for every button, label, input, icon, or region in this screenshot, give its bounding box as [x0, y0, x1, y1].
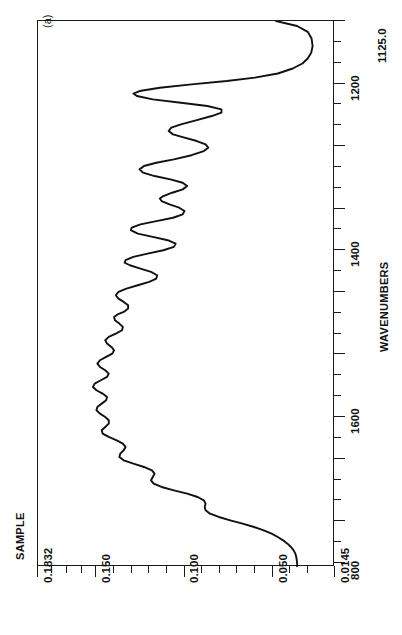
x-axis-tick-label: 1600 — [349, 408, 361, 434]
x-axis-end-label: 1125.0 — [376, 28, 388, 63]
spectrum-trace — [93, 21, 313, 567]
y-axis-tick — [272, 566, 273, 577]
x-axis-tick — [334, 353, 345, 354]
y-axis-tick-label: 0.050 — [277, 554, 289, 583]
y-axis-tick — [307, 566, 308, 573]
x-axis-tick — [334, 124, 341, 125]
x-axis-tick — [334, 103, 341, 104]
y-axis-tick — [184, 566, 185, 577]
x-axis-tick — [334, 166, 341, 167]
x-axis-tick — [334, 187, 341, 188]
x-axis-tick — [334, 395, 341, 396]
y-axis-tick — [201, 566, 202, 573]
x-axis-tick-label: 1200 — [349, 75, 361, 101]
x-axis-title: WAVENUMBERS — [378, 262, 390, 353]
x-axis-tick — [334, 437, 341, 438]
x-axis-tick — [334, 145, 345, 146]
x-axis-tick — [334, 541, 341, 542]
y-axis-tick — [113, 566, 114, 573]
y-axis-tick — [289, 566, 290, 573]
y-axis-tick — [254, 566, 255, 573]
figure-panel-a: (a) 120014001600800 0.18320.1500.1000.05… — [0, 0, 402, 635]
x-axis-tick — [334, 83, 345, 84]
y-axis-tick — [219, 566, 220, 573]
x-axis-tick — [334, 499, 341, 500]
x-axis-tick — [334, 374, 341, 375]
y-axis-tick — [37, 566, 38, 577]
x-axis-tick — [334, 416, 345, 417]
y-axis-tick — [166, 566, 167, 573]
x-axis-tick — [334, 41, 341, 42]
x-axis-tick-label: 1400 — [349, 242, 361, 268]
x-axis-tick — [334, 228, 341, 229]
y-axis-tick — [131, 566, 132, 573]
y-axis-tick — [51, 566, 52, 573]
x-axis-tick — [334, 458, 345, 459]
y-axis-tick — [236, 566, 237, 573]
x-axis-tick — [334, 62, 341, 63]
x-axis-tick — [334, 520, 345, 521]
y-axis-tick — [148, 566, 149, 573]
y-axis-tick-label: 0.150 — [100, 554, 112, 583]
y-axis-tick — [66, 566, 67, 573]
spectrum-plot — [38, 21, 335, 567]
y-axis-tick — [95, 566, 96, 577]
y-axis-tick-label: 0.100 — [188, 554, 200, 583]
x-axis-tick — [334, 20, 345, 21]
x-axis-tick — [334, 479, 341, 480]
x-axis-tick — [334, 312, 341, 313]
plot-frame — [37, 20, 334, 566]
x-axis-tick — [334, 333, 341, 334]
x-axis-tick — [334, 291, 345, 292]
y-axis-tick — [81, 566, 82, 573]
x-axis-tick — [334, 270, 341, 271]
x-axis-tick — [334, 249, 345, 250]
y-axis-title: SAMPLE — [14, 512, 26, 560]
y-axis-tick — [334, 566, 335, 577]
y-axis-tick-label: 0.0145 — [339, 548, 351, 583]
x-axis-tick — [334, 208, 345, 209]
panel-label: (a) — [41, 15, 53, 28]
